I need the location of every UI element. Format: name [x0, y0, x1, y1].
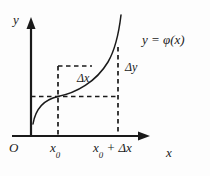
delta-y-annotation: Δy	[125, 61, 137, 73]
y-axis-label: y	[13, 13, 19, 26]
tick-x0-subscript: 0	[56, 150, 60, 160]
tick-x0dx-base: x	[93, 140, 99, 155]
delta-x-annotation: Δx	[77, 72, 89, 84]
function-curve	[33, 15, 121, 124]
function-increment-figure: y x O x0 x0 + Δx Δx Δy y = φ(x)	[0, 0, 210, 176]
origin-label: O	[9, 141, 18, 154]
function-equation-label: y = φ(x)	[142, 33, 185, 46]
tick-x0-base: x	[50, 140, 56, 155]
tick-x0dx-rest: + Δx	[103, 140, 132, 155]
x-axis-label: x	[166, 146, 172, 159]
tick-x0dx-subscript: 0	[99, 150, 103, 160]
tick-label-x0: x0	[50, 141, 60, 157]
tick-label-x0-plus-delta-x: x0 + Δx	[93, 141, 132, 157]
